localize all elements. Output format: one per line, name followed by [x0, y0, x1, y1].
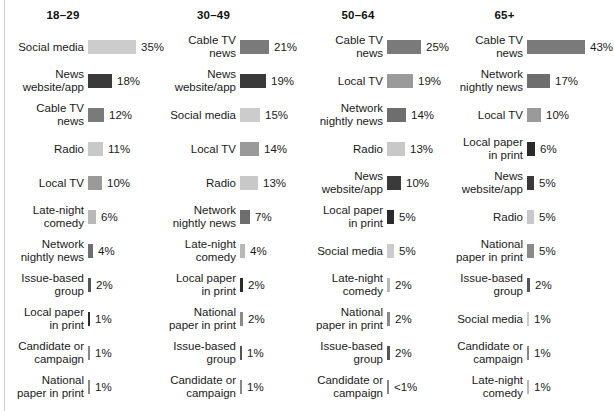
bar-row: Social media15% [154, 98, 299, 132]
bar-value-label: 1% [529, 313, 551, 325]
bar-wrap: 5% [527, 244, 614, 258]
bar-wrap: 6% [88, 210, 154, 224]
bar-value-label: 1% [529, 381, 551, 393]
bar-wrap: 2% [387, 278, 447, 292]
bar-value-label: 1% [90, 381, 112, 393]
bar-row: Social media35% [6, 30, 154, 64]
bar-wrap: 1% [240, 380, 299, 394]
bar-value-label: 17% [550, 75, 578, 87]
bar-row: National paper in print2% [154, 302, 299, 336]
bar-row: Cable TV news12% [6, 98, 154, 132]
bar-wrap: 12% [88, 108, 154, 122]
bar-row: Local paper in print6% [447, 132, 614, 166]
bar-wrap: 5% [387, 210, 447, 224]
bar-row-label: Local TV [299, 75, 387, 88]
bar-row: Network nightly news17% [447, 64, 614, 98]
bar-row: Candidate or campaign<1% [299, 370, 447, 404]
bar-row: Network nightly news4% [6, 234, 154, 268]
bar-wrap: 1% [88, 380, 154, 394]
bar [527, 40, 585, 54]
bar-row-label: Cable TV news [154, 34, 240, 59]
bar-value-label: 1% [90, 347, 112, 359]
bar-row-label: National paper in print [299, 306, 387, 331]
bar-wrap: 2% [88, 278, 154, 292]
bar-row: Late-night comedy1% [447, 370, 614, 404]
bar-row: Candidate or campaign1% [6, 336, 154, 370]
bar-row: Late-night comedy4% [154, 234, 299, 268]
bar-value-label: 2% [530, 279, 552, 291]
bar [88, 40, 136, 54]
bar-row-label: Candidate or campaign [447, 340, 527, 365]
bar-wrap: 1% [240, 346, 299, 360]
bar-row: Local paper in print1% [6, 302, 154, 336]
bar-value-label: 10% [401, 177, 429, 189]
bar-wrap: 10% [88, 176, 154, 190]
bar [240, 108, 260, 122]
bar-value-label: 10% [541, 109, 569, 121]
bar-row-label: National paper in print [154, 306, 240, 331]
bar-row: National paper in print2% [299, 302, 447, 336]
bar-value-label: 21% [269, 41, 297, 53]
bar-row: Issue-based group2% [299, 336, 447, 370]
panel-50-64: 50–64 Cable TV news25%Local TV19%Network… [299, 0, 447, 411]
bar-row-label: Radio [299, 143, 387, 156]
bar-wrap: 43% [527, 40, 614, 54]
bar-row: News website/app5% [447, 166, 614, 200]
bar-value-label: 12% [104, 109, 132, 121]
bar-wrap: 21% [240, 40, 299, 54]
bar-row-label: Social media [299, 245, 387, 258]
bar-wrap: 15% [240, 108, 299, 122]
bar-row: Local TV14% [154, 132, 299, 166]
bar-row-label: Cable TV news [447, 34, 527, 59]
bar-wrap: 1% [88, 346, 154, 360]
bar-row-label: National paper in print [447, 238, 527, 263]
bar-wrap: 25% [387, 40, 447, 54]
bar-row: Cable TV news21% [154, 30, 299, 64]
bar-wrap: 1% [88, 312, 154, 326]
bar-row-label: Network nightly news [154, 204, 240, 229]
bar-wrap: 1% [527, 346, 614, 360]
bar-wrap: 19% [240, 74, 299, 88]
panel-header-50-64: 50–64 [299, 0, 447, 30]
bar-value-label: 6% [96, 211, 118, 223]
bar-row-label: Late-night comedy [6, 204, 88, 229]
bar-wrap: 2% [240, 278, 299, 292]
bar-wrap: 13% [387, 142, 447, 156]
panel-65-plus: 65+ Cable TV news43%Network nightly news… [447, 0, 614, 411]
bar-value-label: 19% [266, 75, 294, 87]
bar-wrap: 4% [88, 244, 154, 258]
bar-value-label: 4% [93, 245, 115, 257]
bar-row-label: News website/app [6, 68, 88, 93]
bar-wrap: 1% [527, 312, 614, 326]
bar-value-label: 2% [390, 347, 412, 359]
bar-value-label: 1% [90, 313, 112, 325]
bar-value-label: 2% [390, 313, 412, 325]
bar-value-label: 14% [406, 109, 434, 121]
bar-row-label: Local paper in print [154, 272, 240, 297]
bar [527, 210, 534, 224]
bar [387, 142, 405, 156]
bar-wrap: 17% [527, 74, 614, 88]
bar-row-label: Candidate or campaign [299, 374, 387, 399]
bar-wrap: 2% [387, 346, 447, 360]
bar-row: Local paper in print2% [154, 268, 299, 302]
bar-row-label: National paper in print [6, 374, 88, 399]
bar-row-label: Issue-based group [299, 340, 387, 365]
bar-row: Candidate or campaign1% [154, 370, 299, 404]
bar-row-label: Cable TV news [299, 34, 387, 59]
bar-row-label: Social media [6, 41, 88, 54]
bar [240, 40, 269, 54]
bar-value-label: 5% [534, 245, 556, 257]
bar-value-label: 13% [405, 143, 433, 155]
bar-value-label: 4% [245, 245, 267, 257]
panel-rows-65-plus: Cable TV news43%Network nightly news17%L… [447, 30, 614, 404]
bar-row-label: Local TV [447, 109, 527, 122]
bar-value-label: 2% [243, 279, 265, 291]
panel-rows-18-29: Social media35%News website/app18%Cable … [6, 30, 154, 404]
bar-row: Issue-based group1% [154, 336, 299, 370]
bar-value-label: 10% [102, 177, 130, 189]
bar-row: National paper in print1% [6, 370, 154, 404]
bar-row: Candidate or campaign1% [447, 336, 614, 370]
bar [527, 244, 534, 258]
bar-row: Issue-based group2% [6, 268, 154, 302]
